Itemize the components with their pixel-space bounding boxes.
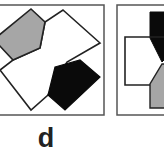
option-label: d [26, 124, 66, 152]
figure-canvas [0, 0, 164, 154]
panel-1 [0, 5, 104, 115]
panel-2 [117, 5, 164, 115]
